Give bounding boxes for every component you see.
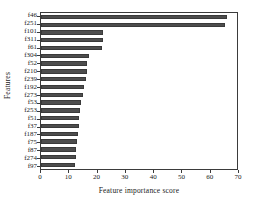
bar: [41, 15, 227, 19]
y-axis-tick-mark: [37, 71, 40, 72]
bar-row: [41, 13, 237, 21]
bar-row: [41, 29, 237, 37]
bar: [41, 77, 86, 81]
y-axis-tick-mark: [37, 40, 40, 41]
y-axis-tick-mark: [37, 32, 40, 33]
y-axis-tick-mark: [37, 87, 40, 88]
bar: [41, 23, 225, 27]
x-axis-tick-label: 50: [178, 173, 185, 181]
y-axis-tick-mark: [37, 63, 40, 64]
x-axis-title: Feature importance score: [40, 186, 238, 195]
bar-row: [41, 130, 237, 138]
bar-series: [41, 13, 237, 169]
x-axis-tick-label: 20: [93, 173, 100, 181]
bar-row: [41, 99, 237, 107]
bar: [41, 116, 79, 120]
bar: [41, 132, 78, 136]
bar-row: [41, 107, 237, 115]
y-axis-tick-mark: [37, 142, 40, 143]
bar: [41, 155, 76, 159]
bar: [41, 46, 102, 50]
x-axis-tick-label: 70: [235, 173, 242, 181]
x-axis-ticks: 010203040506070: [40, 170, 238, 184]
bar: [41, 30, 103, 34]
y-axis-tick-mark: [37, 16, 40, 17]
bar-row: [41, 146, 237, 154]
y-axis-tick-mark: [37, 119, 40, 120]
y-axis-tick-mark: [37, 103, 40, 104]
feature-importance-bar-chart: Features f46f251f101f311f61f304f52f210f2…: [0, 0, 260, 209]
bar: [41, 163, 75, 167]
bar: [41, 93, 83, 97]
y-axis-tick-mark: [37, 48, 40, 49]
y-axis-tick-mark: [37, 166, 40, 167]
bar: [41, 54, 89, 58]
y-axis-tick-mark: [37, 79, 40, 80]
y-axis-tick-labels: f46f251f101f311f61f304f52f210f239f192f27…: [12, 12, 39, 170]
y-axis-title-text: Features: [3, 71, 12, 98]
bar: [41, 139, 77, 143]
x-axis-tick-label: 30: [121, 173, 128, 181]
bar-row: [41, 153, 237, 161]
y-axis-tick-mark: [37, 55, 40, 56]
bar-row: [41, 122, 237, 130]
y-axis-tick-mark: [37, 127, 40, 128]
y-axis-tick-mark: [37, 111, 40, 112]
bar-row: [41, 83, 237, 91]
bar: [41, 124, 79, 128]
y-axis-tick-label: f97: [12, 162, 39, 170]
bar-row: [41, 75, 237, 83]
bar: [41, 147, 76, 151]
bar-row: [41, 36, 237, 44]
y-axis-tick-label: f192: [12, 83, 39, 91]
y-axis-tick-mark: [37, 150, 40, 151]
x-axis-tick-label: 60: [206, 173, 213, 181]
y-axis-tick-label: f239: [12, 75, 39, 83]
bar-row: [41, 68, 237, 76]
bar-row: [41, 138, 237, 146]
bar-row: [41, 91, 237, 99]
y-axis-tick-mark: [37, 134, 40, 135]
x-axis-tick-label: 10: [65, 173, 72, 181]
x-axis-tick-label: 40: [150, 173, 157, 181]
bar-row: [41, 52, 237, 60]
y-axis-tick-mark: [37, 95, 40, 96]
bar: [41, 38, 103, 42]
y-axis-tick-mark: [37, 158, 40, 159]
bar: [41, 69, 87, 73]
y-axis-tick-mark: [37, 24, 40, 25]
bar: [41, 100, 81, 104]
x-axis-tick-label: 0: [38, 173, 42, 181]
bar-row: [41, 44, 237, 52]
bar-row: [41, 161, 237, 169]
bar: [41, 61, 87, 65]
bar: [41, 85, 84, 89]
bar: [41, 108, 80, 112]
plot-area: [40, 12, 238, 170]
bar-row: [41, 21, 237, 29]
bar-row: [41, 60, 237, 68]
bar-row: [41, 114, 237, 122]
